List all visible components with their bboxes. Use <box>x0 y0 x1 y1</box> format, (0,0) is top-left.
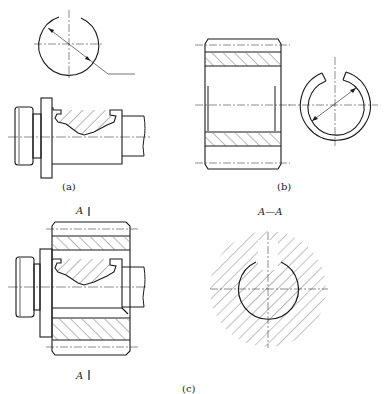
section-title: A—A <box>258 206 282 217</box>
caption-a: (a) <box>62 181 76 192</box>
caption-c: (c) <box>182 383 195 394</box>
view-c-assembly <box>8 207 146 380</box>
caption-b: (b) <box>277 181 291 192</box>
view-b-ring <box>288 57 378 146</box>
technical-drawing <box>0 0 384 394</box>
view-aa-section <box>210 231 328 348</box>
section-marker-top: A <box>76 205 83 216</box>
section-marker-bottom: A <box>76 370 83 381</box>
view-a-circle <box>34 10 135 78</box>
